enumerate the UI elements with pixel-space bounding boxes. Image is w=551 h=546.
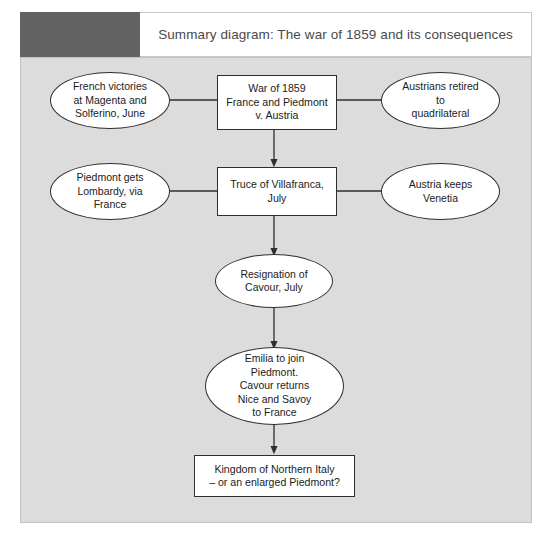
diagram-page: Summary diagram: The war of 1859 and its… [0,0,551,546]
node-truce-of-villafranca: Truce of Villafranca, July [217,167,337,216]
page-title: Summary diagram: The war of 1859 and its… [158,26,513,43]
node-resignation-of-cavour: Resignation of Cavour, July [215,254,333,308]
node-austria-keeps-venetia: Austria keeps Venetia [381,163,500,220]
header-color-swatch [20,12,140,57]
node-kingdom-of-northern-italy: Kingdom of Northern Italy – or an enlarg… [194,455,355,497]
node-emilia-to-join-piedmont: Emilia to join Piedmont. Cavour returns … [205,347,344,425]
node-austrians-retired: Austrians retired to quadrilateral [381,72,500,129]
node-piedmont-gets-lombardy: Piedmont gets Lombardy, via France [50,163,170,220]
header-title-box: Summary diagram: The war of 1859 and its… [140,12,532,57]
node-french-victories: French victories at Magenta and Solferin… [50,72,170,129]
header: Summary diagram: The war of 1859 and its… [20,12,532,57]
node-war-of-1859: War of 1859 France and Piedmont v. Austr… [217,75,337,130]
